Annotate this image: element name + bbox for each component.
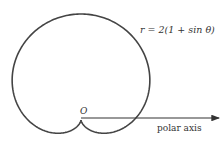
- polar-axis-label: polar axis: [157, 123, 202, 133]
- cardioid-diagram: r = 2(1 + sin θ) O polar axis: [0, 0, 223, 143]
- equation-label: r = 2(1 + sin θ): [140, 24, 215, 35]
- origin-label: O: [80, 106, 88, 116]
